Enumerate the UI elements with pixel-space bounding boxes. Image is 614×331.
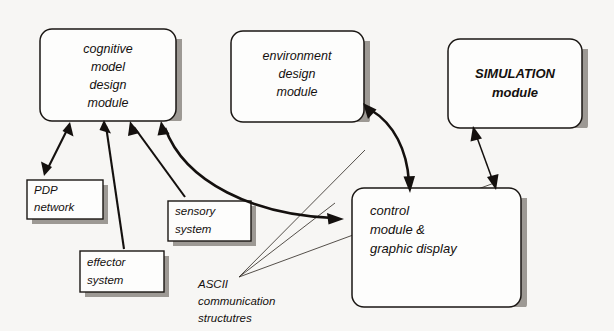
arrow-sensory-cognitive (128, 121, 185, 197)
environment-label-line-3: module (277, 85, 318, 99)
sensory-label-line-1: sensory (175, 205, 217, 217)
cognitive-label-line-4: module (88, 96, 129, 110)
pdp-label-line-2: network (34, 201, 76, 213)
pdp-label-line-1: PDP (34, 184, 58, 196)
environment-label-line-2: design (279, 67, 316, 81)
arrow-cognitive-pdp (41, 122, 74, 176)
effector-label-line-2: system (87, 274, 124, 286)
ascii-label-line-1: ASCII (197, 278, 229, 290)
control-label-line-3: graphic display (370, 241, 458, 256)
leader-line-to-environment-arrow (239, 150, 365, 277)
sensory-label-line-2: system (175, 223, 212, 235)
environment-label-line-1: environment (263, 49, 332, 63)
diagram-canvas: cognitive model design module environmen… (0, 0, 614, 331)
ascii-label-line-3: structutres (198, 312, 252, 324)
control-label-line-1: control (370, 203, 410, 218)
simulation-box-face[interactable] (448, 39, 582, 128)
arrow-environment-control (363, 103, 415, 193)
ascii-label-line-2: communication (198, 295, 275, 307)
simulation-label-line-2: module (492, 85, 538, 100)
architecture-diagram: cognitive model design module environmen… (0, 0, 614, 331)
cognitive-label-line-2: model (91, 60, 126, 74)
effector-label-line-1: effector (87, 256, 127, 268)
cognitive-label-line-3: design (90, 78, 127, 92)
cognitive-label-line-1: cognitive (83, 42, 132, 56)
control-label-line-2: module & (370, 222, 425, 237)
ascii-annotation-label: ASCII communication structutres (197, 278, 275, 324)
simulation-label-line-1: SIMULATION (475, 66, 556, 81)
arrow-simulation-control (471, 126, 499, 190)
